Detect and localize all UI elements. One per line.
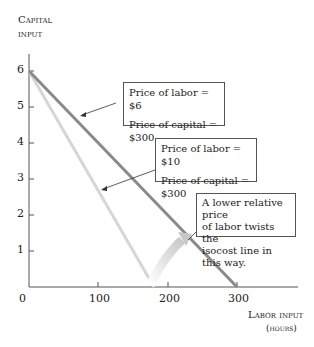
y-ticks (29, 71, 34, 251)
y-tick-6: 6 (17, 63, 24, 76)
y-axis-label-line2: input (18, 28, 42, 39)
y-tick-2: 2 (17, 207, 24, 220)
x-tick-100: 100 (89, 292, 110, 305)
twist-arrow-icon (150, 240, 182, 285)
x-ticks (98, 282, 237, 287)
box2-line1: Price of labor = $10 (161, 142, 251, 168)
origin-label: 0 (19, 292, 26, 305)
y-tick-3: 3 (17, 171, 24, 184)
box3-line2: of labor twists the (202, 221, 290, 245)
box3-line1: A lower relative price (202, 197, 290, 221)
annotation-box-labor-6: Price of labor = $6 Price of capital = $… (123, 82, 225, 126)
y-tick-1: 1 (17, 243, 24, 256)
x-tick-300: 300 (228, 292, 249, 305)
x-axis-label-line1: Labor input (248, 309, 303, 320)
y-tick-5: 5 (17, 99, 24, 112)
box1-line1: Price of labor = $6 (129, 86, 219, 112)
x-axis-label-line2: (hours) (266, 323, 297, 333)
y-tick-4: 4 (17, 135, 24, 148)
annotation-box-twist: A lower relative price of labor twists t… (196, 193, 296, 237)
annotation-box-labor-10: Price of labor = $10 Price of capital = … (155, 138, 257, 182)
x-tick-200: 200 (159, 292, 180, 305)
y-axis-label-line1: Capital (18, 14, 52, 25)
box3-line3: isocost line in this way. (202, 245, 290, 269)
